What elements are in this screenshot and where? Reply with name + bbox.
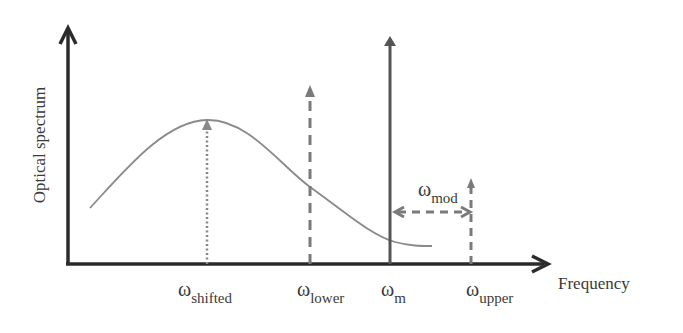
lower-sideband-arrow xyxy=(305,85,315,264)
omega-lower-label: ωlower xyxy=(297,278,344,301)
x-axis xyxy=(66,256,548,272)
spectrum-curve xyxy=(90,120,432,246)
omega-shifted-label: ωshifted xyxy=(178,278,232,301)
omega-mod-label: ωmod xyxy=(418,178,458,201)
omega-m-label: ωm xyxy=(381,278,406,301)
carrier-arrow xyxy=(384,36,396,264)
shifted-peak-marker xyxy=(202,119,212,264)
upper-sideband-arrow xyxy=(467,178,475,264)
y-axis-label: Optical spectrum xyxy=(30,75,50,215)
omega-upper-label: ωupper xyxy=(466,278,513,301)
y-axis xyxy=(60,28,76,264)
mod-span-arrow xyxy=(395,207,470,217)
x-axis-label: Frequency xyxy=(558,274,630,294)
